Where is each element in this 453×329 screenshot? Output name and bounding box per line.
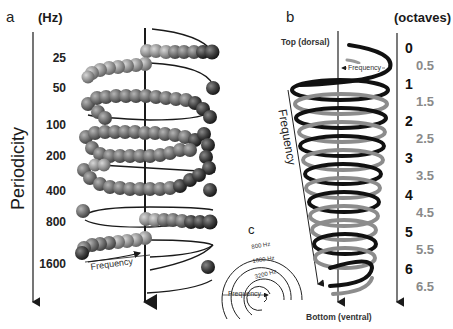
panel-c-letter: c (248, 222, 255, 237)
octave-label-3-5: 3.5 (416, 168, 434, 183)
octave-label-4-5: 4.5 (416, 205, 434, 220)
octave-label-6: 6 (405, 261, 413, 277)
octave-label-4: 4 (405, 187, 413, 203)
panel-b-top-frequency-label: Frequency (347, 64, 382, 71)
top-dorsal-label: Top (dorsal) (281, 37, 329, 47)
octave-label-0-5: 0.5 (416, 58, 434, 73)
panel-b-letter: b (286, 8, 294, 25)
bottom-ventral-label: Bottom (ventral) (306, 312, 372, 322)
octave-label-2-5: 2.5 (416, 131, 434, 146)
octave-label-2: 2 (405, 113, 413, 129)
panel-a-helix-graphic (0, 0, 453, 329)
octave-label-3: 3 (405, 150, 413, 166)
octave-label-0: 0 (405, 40, 413, 56)
octave-label-1: 1 (405, 76, 413, 92)
octave-label-1-5: 1.5 (416, 94, 434, 109)
octaves-unit-label: (octaves) (394, 10, 451, 25)
panel-c-frequency-label: Frequency (228, 290, 261, 297)
octave-label-5: 5 (405, 224, 413, 240)
panel-b-coil (292, 45, 390, 294)
octave-label-6-5: 6.5 (416, 279, 434, 294)
panel-b-frequency-arrow (288, 90, 318, 284)
octave-label-5-5: 5.5 (416, 242, 434, 257)
